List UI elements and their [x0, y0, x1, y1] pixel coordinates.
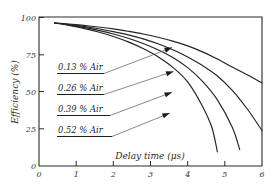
x-tick-label-2: 2 [110, 170, 116, 179]
x-axis-ticks [76, 161, 225, 166]
leader-line-0 [104, 48, 172, 74]
leader-line-1 [104, 71, 174, 94]
x-tick-label-5: 5 [222, 170, 227, 179]
y-tick-label-25: 25 [25, 125, 36, 134]
y-tick-label-50: 50 [26, 88, 36, 97]
y-tick-label-0: 0 [31, 162, 36, 171]
x-tick-label-0: 0 [36, 170, 41, 179]
leader-line-2 [110, 92, 172, 115]
annotation-label-2: 0.39 % Air [58, 104, 104, 114]
x-tick-label-4: 4 [184, 170, 190, 179]
x-tick-label-3: 3 [148, 170, 153, 179]
y-axis-title: Efficiency (%) [10, 60, 20, 125]
y-tick-label-75: 75 [26, 51, 36, 60]
leader-arrowhead-3 [162, 113, 170, 118]
leader-arrowhead-0 [164, 48, 172, 53]
x-tick-label-6: 6 [259, 170, 264, 179]
y-tick-label-100: 100 [21, 14, 36, 23]
efficiency-vs-delay-time-chart: 100 75 50 25 0 0 1 2 3 4 5 6 Delay time … [0, 0, 275, 186]
chart-figure: 100 75 50 25 0 0 1 2 3 4 5 6 Delay time … [0, 0, 275, 186]
leader-arrowhead-2 [164, 92, 172, 97]
annotation-leaders [104, 48, 174, 137]
y-axis-ticks [39, 18, 44, 129]
x-axis-tick-labels: 0 1 2 3 4 5 6 [36, 170, 264, 179]
leader-arrowhead-1 [166, 71, 174, 76]
x-axis-title: Delay time (μs) [114, 151, 185, 161]
leader-line-3 [112, 113, 170, 136]
y-axis-tick-labels: 100 75 50 25 0 [21, 14, 36, 171]
annotation-label-3: 0.52 % Air [58, 125, 104, 135]
annotation-labels: 0.13 % Air 0.26 % Air 0.39 % Air 0.52 % … [57, 62, 112, 137]
annotation-label-0: 0.13 % Air [58, 62, 104, 72]
x-tick-label-1: 1 [74, 170, 79, 179]
annotation-label-1: 0.26 % Air [58, 83, 104, 93]
